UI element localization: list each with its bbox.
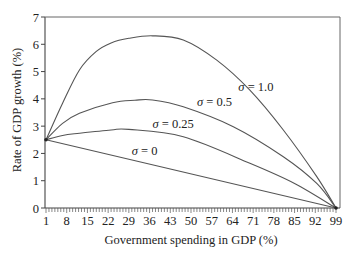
y-tick-label: 7 bbox=[33, 11, 39, 25]
y-tick-label: 2 bbox=[33, 147, 39, 161]
x-tick-label: 29 bbox=[123, 214, 136, 228]
x-tick-label: 15 bbox=[81, 214, 94, 228]
x-tick-label: 99 bbox=[330, 214, 343, 228]
x-axis-title: Government spending in GDP (%) bbox=[104, 233, 277, 247]
x-tick-label: 50 bbox=[185, 214, 198, 228]
curve-label: σ = 0 bbox=[132, 144, 158, 158]
x-tick-label: 78 bbox=[268, 214, 281, 228]
curve-0 bbox=[46, 140, 336, 208]
x-tick-label: 57 bbox=[205, 214, 218, 228]
y-tick-label: 6 bbox=[33, 38, 39, 52]
curve-label: σ = 1.0 bbox=[238, 80, 273, 94]
x-tick-label: 22 bbox=[102, 214, 115, 228]
y-axis-title: Rate of GDP growth (%) bbox=[10, 48, 24, 173]
x-tick-label: 43 bbox=[164, 214, 177, 228]
x-tick-label: 71 bbox=[247, 214, 260, 228]
x-tick-label: 36 bbox=[143, 214, 156, 228]
x-axis: 1815222936435057647178859299 bbox=[43, 208, 342, 228]
x-tick-label: 85 bbox=[288, 214, 301, 228]
y-tick-label: 5 bbox=[33, 65, 39, 79]
curve-label: σ = 0.25 bbox=[153, 117, 194, 131]
x-tick-label: 1 bbox=[43, 214, 49, 228]
x-tick-label: 8 bbox=[64, 214, 70, 228]
gdp-growth-chart: 01234567 1815222936435057647178859299 σ … bbox=[0, 0, 354, 254]
curve-labels: σ = 1.0σ = 0.5σ = 0.25σ = 0 bbox=[132, 80, 274, 158]
start-point bbox=[44, 138, 48, 142]
x-tick-label: 92 bbox=[309, 214, 322, 228]
y-tick-label: 1 bbox=[33, 174, 39, 188]
y-tick-label: 3 bbox=[33, 120, 39, 134]
curve-label: σ = 0.5 bbox=[197, 95, 232, 109]
x-tick-label: 64 bbox=[226, 214, 239, 228]
y-tick-label: 0 bbox=[33, 202, 39, 216]
plot-frame bbox=[45, 17, 340, 208]
end-point bbox=[334, 206, 338, 210]
y-tick-label: 4 bbox=[33, 92, 40, 106]
y-axis: 01234567 bbox=[33, 11, 45, 216]
curve-0.25 bbox=[46, 129, 336, 208]
